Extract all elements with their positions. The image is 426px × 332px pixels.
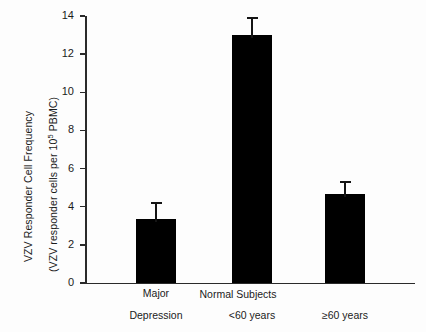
y-axis-tick-label-10: 10 [34, 86, 74, 97]
y-axis-tick-10 [80, 92, 85, 93]
error-bar-stem-1 [251, 17, 253, 38]
y-axis-tick-label-2: 2 [34, 239, 74, 250]
y-axis-tick-4 [80, 206, 85, 207]
y-axis-tick-8 [80, 130, 85, 131]
error-bar-cap-0 [151, 202, 162, 204]
x-axis-label-2-line2: ≥60 years [290, 310, 400, 322]
error-bar-stem-2 [344, 181, 346, 197]
error-bar-cap-2 [340, 181, 351, 183]
y-axis-tick-label-6: 6 [34, 163, 74, 174]
bar-0 [136, 219, 176, 283]
bar-1 [232, 35, 272, 283]
y-axis-tick-0 [80, 282, 85, 283]
error-bar-stem-0 [155, 202, 157, 222]
x-axis-label-0-line2: Depression [101, 310, 211, 322]
y-axis-tick-label-14: 14 [34, 10, 74, 21]
x-axis-label-0-line1: Major [101, 288, 211, 300]
chart-figure: VZV Responder Cell Frequency (VZV respon… [0, 0, 426, 332]
y-axis-tick-14 [80, 15, 85, 16]
y-axis-tick-label-8: 8 [34, 124, 74, 135]
y-axis-line [85, 16, 87, 284]
error-bar-cap-1 [247, 17, 258, 19]
y-axis-tick-2 [80, 244, 85, 245]
bar-2 [325, 194, 365, 283]
y-axis-tick-12 [80, 53, 85, 54]
y-axis-tick-label-0: 0 [34, 277, 74, 288]
y-axis-tick-label-12: 12 [34, 48, 74, 59]
y-axis-title-line1: VZV Responder Cell Frequency [22, 111, 34, 262]
y-axis-tick-label-4: 4 [34, 201, 74, 212]
y-axis-tick-6 [80, 168, 85, 169]
